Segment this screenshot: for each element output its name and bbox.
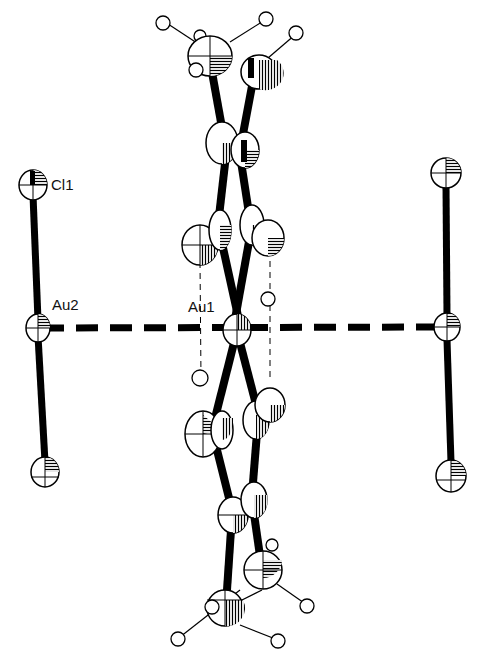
- atom-cl-left-bottom: [31, 457, 59, 487]
- atom-c-low-left-inner: [211, 411, 233, 449]
- atom-c-top-right: [241, 55, 284, 90]
- atom-c-upper-2: [231, 132, 259, 168]
- hydrogen-lower-left: [192, 370, 208, 386]
- atom-c-low-right-outer: [255, 388, 285, 422]
- atom-c-lower-2: [241, 482, 268, 518]
- atom-au1: [223, 314, 251, 346]
- atom-au2: [26, 314, 50, 342]
- hydrogen-bottom-3: [300, 599, 314, 613]
- atom-c-top-left: [188, 36, 232, 77]
- atom-cl1: [19, 170, 47, 200]
- hydrogen-bottom-1: [171, 632, 185, 646]
- label-au1: Au1: [188, 298, 215, 315]
- atom-au-right: [434, 313, 460, 341]
- right-chain: [431, 158, 466, 492]
- label-au2: Au2: [52, 296, 79, 313]
- atom-cl-right-top: [431, 158, 461, 188]
- label-cl1: Cl1: [51, 176, 74, 193]
- hydrogen-bottom-2: [271, 634, 285, 648]
- hydrogen-upper-right: [261, 292, 275, 306]
- ortep-diagram: Cl1 Au2 Au1: [0, 0, 484, 663]
- atom-c-bottom-right: [244, 539, 282, 589]
- atom-cl-right-bottom: [436, 460, 466, 492]
- atom-c-bottom-left: [205, 590, 245, 626]
- atom-c-mid-left-inner: [209, 210, 231, 250]
- atom-c-mid-right-outer: [252, 220, 284, 256]
